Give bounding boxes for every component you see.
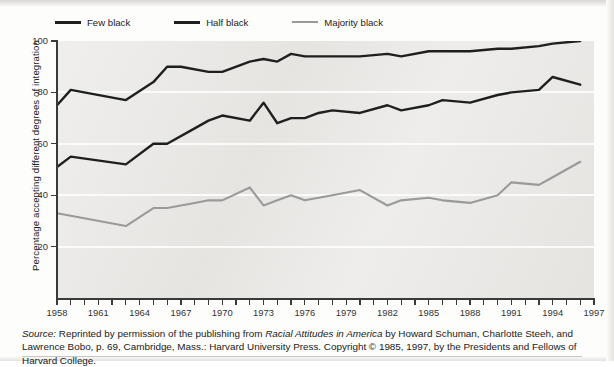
x-tick-1988	[469, 300, 470, 305]
legend-label-majority-black: Majority black	[324, 17, 383, 28]
x-tick-label-1985: 1985	[412, 307, 446, 318]
x-tick-1987	[456, 300, 457, 305]
x-tick-label-1979: 1979	[329, 307, 363, 318]
legend-swatch-few-black	[55, 21, 81, 24]
figure-source-caption: Source: Reprinted by permission of the p…	[22, 327, 600, 367]
x-tick-1976	[304, 300, 305, 305]
x-tick-1965	[153, 300, 154, 305]
scan-edge-top	[0, 0, 614, 7]
x-tick-1981	[373, 300, 374, 305]
legend-item-majority-black: Majority black	[292, 17, 383, 28]
chart-legend: Few black Half black Majority black	[55, 15, 383, 29]
x-tick-1997	[593, 300, 594, 305]
legend-item-few-black: Few black	[55, 17, 130, 28]
x-tick-1963	[125, 300, 126, 305]
x-tick-1977	[318, 300, 319, 305]
legend-label-few-black: Few black	[87, 17, 130, 28]
x-tick-1962	[111, 300, 112, 305]
y-tick-80	[51, 92, 56, 93]
x-tick-1980	[359, 300, 360, 305]
y-tick-60	[51, 143, 56, 144]
x-tick-label-1958: 1958	[40, 307, 74, 318]
x-tick-label-1976: 1976	[288, 307, 322, 318]
x-tick-1966	[167, 300, 168, 305]
x-tick-1994	[552, 300, 553, 305]
x-tick-label-1973: 1973	[247, 307, 281, 318]
x-tick-1975	[290, 300, 291, 305]
x-tick-1971	[235, 300, 236, 305]
x-tick-1996	[580, 300, 581, 305]
x-tick-label-1961: 1961	[81, 307, 115, 318]
legend-swatch-half-black	[174, 21, 200, 24]
x-tick-1978	[332, 300, 333, 305]
x-tick-1983	[401, 300, 402, 305]
series-line-majority-black	[57, 162, 580, 226]
x-tick-1993	[538, 300, 539, 305]
x-tick-label-1967: 1967	[164, 307, 198, 318]
chart-lines	[57, 41, 594, 298]
x-tick-label-1994: 1994	[536, 307, 570, 318]
x-tick-1972	[249, 300, 250, 305]
x-tick-1986	[442, 300, 443, 305]
y-tick-40	[51, 195, 56, 196]
x-tick-1991	[511, 300, 512, 305]
x-tick-1973	[263, 300, 264, 305]
x-tick-1968	[194, 300, 195, 305]
series-line-few-black	[57, 41, 580, 105]
x-tick-label-1997: 1997	[577, 307, 611, 318]
x-tick-label-1982: 1982	[370, 307, 404, 318]
caption-text-1: Reprinted by permission of the publishin…	[56, 328, 265, 339]
x-tick-1985	[428, 300, 429, 305]
y-axis-line	[56, 40, 58, 299]
caption-rule	[22, 356, 582, 357]
x-tick-1967	[180, 300, 181, 305]
legend-label-half-black: Half black	[206, 17, 248, 28]
x-tick-label-1964: 1964	[123, 307, 157, 318]
legend-swatch-majority-black	[292, 21, 318, 23]
y-axis-title: Percentage accepting different degrees o…	[30, 31, 41, 281]
x-tick-1995	[566, 300, 567, 305]
x-tick-1979	[346, 300, 347, 305]
x-tick-1992	[525, 300, 526, 305]
x-tick-label-1988: 1988	[453, 307, 487, 318]
x-axis-line	[56, 298, 595, 300]
chart-plot-area	[57, 41, 594, 298]
x-tick-label-1991: 1991	[494, 307, 528, 318]
y-tick-100	[51, 40, 56, 41]
x-tick-1961	[98, 300, 99, 305]
x-tick-1989	[483, 300, 484, 305]
x-tick-1974	[277, 300, 278, 305]
x-tick-1969	[208, 300, 209, 305]
series-line-half-black	[57, 77, 580, 167]
x-tick-label-1970: 1970	[205, 307, 239, 318]
x-tick-1958	[56, 300, 57, 305]
y-tick-20	[51, 246, 56, 247]
x-tick-1964	[139, 300, 140, 305]
x-tick-1990	[497, 300, 498, 305]
x-tick-1970	[222, 300, 223, 305]
x-tick-1982	[387, 300, 388, 305]
x-tick-1959	[70, 300, 71, 305]
x-tick-1960	[84, 300, 85, 305]
x-tick-1984	[414, 300, 415, 305]
legend-item-half-black: Half black	[174, 17, 248, 28]
caption-book-title: Racial Attitudes in America	[265, 328, 382, 339]
caption-source-word: Source:	[22, 328, 56, 339]
